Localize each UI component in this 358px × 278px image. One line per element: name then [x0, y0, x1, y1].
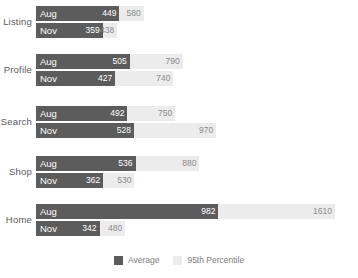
bar-value-average-search-nov: 528	[104, 123, 131, 138]
bar-value-95th-percentile-search-aug: 750	[148, 106, 172, 121]
bar-value-95th-percentile-search-nov: 970	[189, 123, 213, 138]
bar-row-home-aug[interactable]: Aug9821610	[36, 204, 335, 219]
bar-value-average-listing-aug: 449	[89, 6, 116, 21]
bar-group-label-home-nov: Nov	[40, 221, 57, 236]
category-label-search: Search	[0, 116, 32, 127]
category-label-listing: Listing	[0, 16, 32, 27]
bar-value-95th-percentile-listing-nov: 438	[90, 23, 114, 38]
bar-value-95th-percentile-shop-aug: 880	[172, 156, 196, 171]
grouped-bar-chart: ListingAug449580Nov359438ProfileAug50579…	[0, 0, 358, 278]
bar-row-profile-nov[interactable]: Nov427740	[36, 71, 335, 86]
legend-label-95th-percentile: 95th Percentile	[187, 255, 244, 265]
bar-value-average-home-aug: 982	[188, 204, 215, 219]
legend-label-average: Average	[128, 255, 160, 265]
bar-value-95th-percentile-profile-nov: 740	[146, 71, 170, 86]
legend-swatch-average	[114, 256, 123, 265]
bar-row-listing-aug[interactable]: Aug449580	[36, 6, 335, 21]
bar-value-95th-percentile-profile-aug: 790	[156, 54, 180, 69]
plot-area: ListingAug449580Nov359438ProfileAug50579…	[0, 0, 358, 246]
bar-value-average-profile-nov: 427	[85, 71, 112, 86]
category-label-profile: Profile	[0, 64, 32, 75]
bar-group-label-listing-aug: Aug	[40, 6, 57, 21]
bar-value-95th-percentile-home-nov: 480	[98, 221, 122, 236]
bar-row-profile-aug[interactable]: Aug505790	[36, 54, 335, 69]
bar-value-average-profile-aug: 505	[100, 54, 127, 69]
bar-group-label-profile-nov: Nov	[40, 71, 57, 86]
bar-value-95th-percentile-home-aug: 1610	[308, 204, 332, 219]
bar-value-average-home-nov: 342	[70, 221, 97, 236]
category-label-shop: Shop	[0, 166, 32, 177]
category-group-profile: ProfileAug505790Nov427740	[0, 54, 358, 86]
category-label-home: Home	[0, 214, 32, 225]
legend-item-average[interactable]: Average	[114, 255, 160, 265]
bar-group-label-shop-aug: Aug	[40, 156, 57, 171]
bar-group-label-listing-nov: Nov	[40, 23, 57, 38]
bar-group-label-home-aug: Aug	[40, 204, 57, 219]
bar-row-search-nov[interactable]: Nov528970	[36, 123, 335, 138]
category-group-home: HomeAug9821610Nov342480	[0, 204, 358, 236]
bar-group-label-search-aug: Aug	[40, 106, 57, 121]
bar-row-shop-nov[interactable]: Nov362530	[36, 173, 335, 188]
legend-swatch-95th-percentile	[173, 256, 182, 265]
bar-value-95th-percentile-listing-aug: 580	[117, 6, 141, 21]
bar-value-average-shop-aug: 536	[106, 156, 133, 171]
category-group-search: SearchAug492750Nov528970	[0, 106, 358, 138]
category-group-listing: ListingAug449580Nov359438	[0, 6, 358, 38]
bar-value-95th-percentile-shop-nov: 530	[107, 173, 131, 188]
chart-legend: Average 95th Percentile	[0, 255, 358, 265]
bar-value-average-shop-nov: 362	[73, 173, 100, 188]
bar-group-label-search-nov: Nov	[40, 123, 57, 138]
bar-row-search-aug[interactable]: Aug492750	[36, 106, 335, 121]
bar-group-label-shop-nov: Nov	[40, 173, 57, 188]
bar-row-home-nov[interactable]: Nov342480	[36, 221, 335, 236]
bar-group-label-profile-aug: Aug	[40, 54, 57, 69]
bar-value-average-search-aug: 492	[97, 106, 124, 121]
legend-item-95th-percentile[interactable]: 95th Percentile	[173, 255, 244, 265]
category-group-shop: ShopAug536880Nov362530	[0, 156, 358, 188]
bar-row-shop-aug[interactable]: Aug536880	[36, 156, 335, 171]
bar-row-listing-nov[interactable]: Nov359438	[36, 23, 335, 38]
